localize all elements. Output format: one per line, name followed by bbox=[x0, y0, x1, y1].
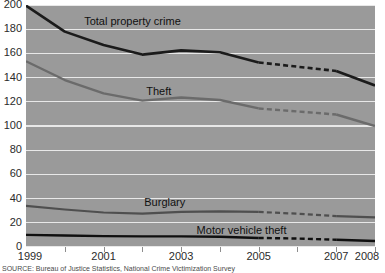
series-label: Theft bbox=[146, 85, 171, 97]
y-axis-tick-label: 180 bbox=[0, 23, 22, 34]
y-axis: 020406080100120140160180200 bbox=[0, 0, 24, 270]
series-line bbox=[336, 115, 375, 127]
x-axis-tick-mark bbox=[181, 247, 182, 252]
series-line bbox=[336, 71, 375, 86]
series-line bbox=[259, 238, 337, 240]
x-axis-tick-mark bbox=[375, 247, 376, 252]
series-line bbox=[259, 108, 337, 114]
y-axis-tick-label: 160 bbox=[0, 47, 22, 58]
series-line bbox=[259, 212, 337, 216]
x-axis-tick-mark bbox=[259, 247, 260, 252]
series-line bbox=[259, 62, 337, 70]
x-axis-tick-mark bbox=[65, 247, 66, 252]
series-line bbox=[26, 206, 259, 214]
series-line bbox=[336, 216, 375, 217]
y-axis-tick-label: 200 bbox=[0, 0, 22, 10]
x-axis-tick-mark bbox=[336, 247, 337, 252]
series-label: Burglary bbox=[144, 196, 185, 208]
y-axis-tick-label: 60 bbox=[0, 168, 22, 179]
series-line bbox=[26, 61, 259, 108]
series-label: Motor vehicle theft bbox=[197, 224, 287, 236]
y-axis-tick-label: 40 bbox=[0, 193, 22, 204]
y-axis-tick-label: 80 bbox=[0, 144, 22, 155]
y-axis-tick-label: 100 bbox=[0, 120, 22, 131]
y-axis-tick-label: 20 bbox=[0, 217, 22, 228]
x-axis-tick-mark bbox=[104, 247, 105, 252]
x-axis: 199920012003200520072008 bbox=[0, 250, 385, 266]
series-line bbox=[336, 240, 375, 241]
series-lines bbox=[26, 5, 375, 247]
x-axis-tick-mark bbox=[297, 247, 298, 252]
y-axis-tick-label: 120 bbox=[0, 96, 22, 107]
source-caption: SOURCE: Bureau of Justice Statistics, Na… bbox=[2, 265, 385, 273]
x-axis-tick-label: 1999 bbox=[18, 250, 42, 263]
plot-area bbox=[26, 5, 375, 247]
series-label: Total property crime bbox=[84, 15, 181, 27]
y-axis-tick-label: 140 bbox=[0, 72, 22, 83]
x-axis-tick-mark bbox=[142, 247, 143, 252]
x-axis-tick-mark bbox=[220, 247, 221, 252]
